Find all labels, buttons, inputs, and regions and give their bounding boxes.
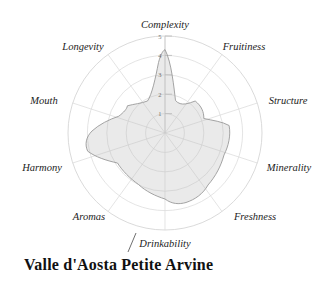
drinkability-leader-line	[128, 233, 136, 252]
axis-label-mouth: Mouth	[29, 95, 57, 106]
tick-label-2: 2	[158, 91, 161, 98]
axis-label-aromas: Aromas	[72, 211, 105, 222]
axis-label-complexity: Complexity	[141, 19, 189, 30]
axis-label-longevity: Longevity	[61, 41, 104, 52]
tick-label-5: 5	[158, 33, 161, 40]
radar-chart-container: 5 4 3 2 1 Complexity Fruitiness Structur…	[0, 0, 330, 288]
tick-label-1: 1	[158, 110, 161, 117]
axis-label-minerality: Minerality	[266, 162, 312, 173]
radar-chart-svg: 5 4 3 2 1 Complexity Fruitiness Structur…	[0, 0, 330, 288]
tick-label-3: 3	[158, 71, 161, 78]
chart-title: Valle d'Aosta Petite Arvine	[24, 256, 213, 274]
axis-label-drinkability: Drinkability	[138, 238, 191, 249]
axis-label-fruitiness: Fruitiness	[222, 41, 266, 52]
axis-label-freshness: Freshness	[233, 211, 276, 222]
axis-label-harmony: Harmony	[21, 162, 62, 173]
axis-label-structure: Structure	[269, 95, 308, 106]
